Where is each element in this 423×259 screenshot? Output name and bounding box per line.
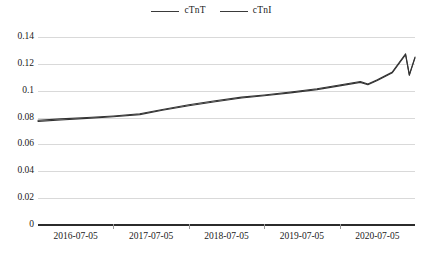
y-axis-tick-label: 0.02 <box>0 193 34 203</box>
x-axis-tick <box>264 224 265 229</box>
x-axis-line <box>38 224 415 226</box>
y-axis-tick-label: 0.06 <box>0 140 34 150</box>
x-axis-tick-label: 2018-07-05 <box>204 232 248 242</box>
y-axis-tick-label: 0 <box>0 220 34 230</box>
x-axis-tick <box>113 224 114 229</box>
line-chart: cTnT cTnI 00.020.040.060.080.10.120.14 2… <box>0 0 423 259</box>
series-line-ctnt <box>38 54 415 120</box>
x-axis-labels: 2016-07-052017-07-052018-07-052019-07-05… <box>0 232 423 248</box>
y-axis-tick-label: 0.1 <box>0 86 34 96</box>
legend-label-ctnt: cTnT <box>184 6 205 16</box>
chart-legend: cTnT cTnI <box>0 2 423 20</box>
y-axis-labels: 00.020.040.060.080.10.120.14 <box>0 0 34 259</box>
legend-line-ctni <box>220 11 248 12</box>
legend-entry-ctni: cTnI <box>220 6 272 16</box>
legend-label-ctni: cTnI <box>253 6 272 16</box>
x-axis-tick-label: 2019-07-05 <box>280 232 324 242</box>
y-axis-tick-label: 0.14 <box>0 32 34 42</box>
x-axis-tick-label: 2020-07-05 <box>355 232 399 242</box>
x-axis-tick <box>189 224 190 229</box>
x-axis-tick-label: 2016-07-05 <box>54 232 98 242</box>
x-axis-tick-label: 2017-07-05 <box>129 232 173 242</box>
y-axis-tick-label: 0.04 <box>0 167 34 177</box>
legend-line-ctnt <box>151 11 179 12</box>
legend-entry-ctnt: cTnT <box>151 6 205 16</box>
series-container <box>38 37 415 225</box>
x-axis-tick <box>340 224 341 229</box>
y-axis-tick-label: 0.12 <box>0 59 34 69</box>
y-axis-tick-label: 0.08 <box>0 113 34 123</box>
series-line-ctni <box>38 55 415 122</box>
